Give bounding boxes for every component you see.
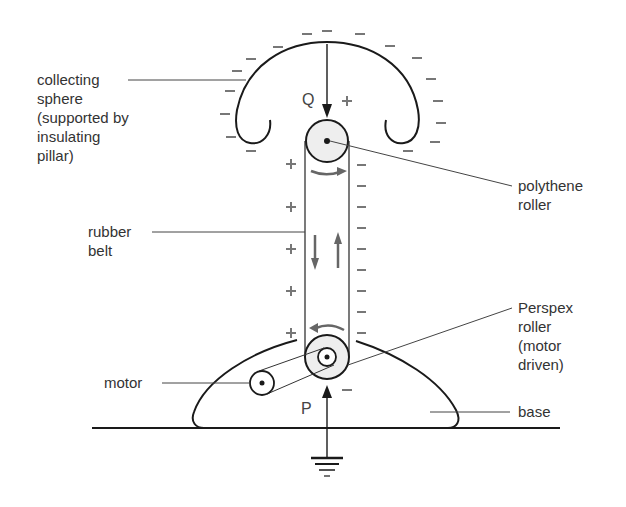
leader-perspex-roller xyxy=(348,308,512,365)
label-rubber-belt: rubber belt xyxy=(88,222,131,260)
label-collecting-sphere: collecting sphere (supported by insulati… xyxy=(37,70,129,165)
label-motor: motor xyxy=(104,373,142,392)
motor-axle xyxy=(260,381,265,386)
base-left-arc xyxy=(193,340,297,428)
label-point-p: P xyxy=(301,400,312,418)
label-point-q: Q xyxy=(302,91,314,109)
earth-icon xyxy=(311,458,343,476)
perspex-roller-axle xyxy=(325,355,330,360)
bottom-rotation-arrow xyxy=(316,325,344,330)
belt-up-arrowhead xyxy=(334,232,342,244)
base-right-arc xyxy=(356,341,458,428)
p-arrow-head xyxy=(322,385,332,398)
leader-polythene-roller xyxy=(330,141,512,186)
top-rotation-arrowhead xyxy=(337,167,347,176)
label-perspex-roller: Perspex roller (motor driven) xyxy=(518,298,573,374)
label-base: base xyxy=(518,402,551,421)
label-polythene-roller: polythene roller xyxy=(518,176,583,214)
belt-down-arrowhead xyxy=(311,258,319,270)
bottom-rotation-arrowhead xyxy=(309,323,318,333)
q-arrow-head xyxy=(322,104,332,118)
polythene-roller-axle xyxy=(324,138,330,144)
top-rotation-arrow xyxy=(311,171,340,174)
